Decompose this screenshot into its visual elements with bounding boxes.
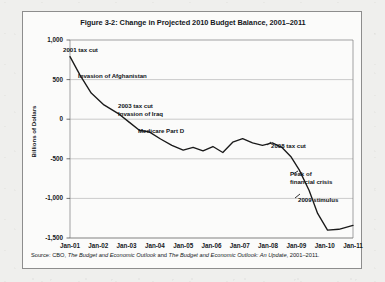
chart-annotation: financial crisis [290,178,332,186]
source-prefix: Source: CBO, [31,252,68,258]
source-note: Source: CBO, The Budget and Economic Out… [31,251,357,259]
chart-annotation: Invasion of Iraq [118,110,163,118]
y-axis-tick-label: -500 [29,155,63,162]
figure-card: Figure 3-2: Change in Projected 2010 Bud… [22,11,362,269]
figure-title: Figure 3-2: Change in Projected 2010 Bud… [23,18,363,27]
y-axis-title: Billions of Dollars [30,84,37,180]
chart-annotation: 2008 tax cut [271,142,306,150]
source-italic-2: The Budget and Economic Outlook: An Upda… [169,252,287,258]
gridlines [70,80,353,238]
y-axis-tick-label: 500 [29,76,63,83]
axis-frame [70,40,353,238]
y-axis-tick-label: 0 [29,115,63,122]
source-italic-1: The Budget and Economic Outlook [68,252,156,258]
source-suffix: , 2001–2011. [287,252,320,258]
source-mid: and [156,252,169,258]
y-axis-tick-label: -1,000 [29,194,63,201]
axis-tickmarks [67,40,71,238]
y-axis-tick-label: 1,000 [29,36,63,43]
chart-annotation: Invasion of Afghanistan [78,72,147,80]
chart-annotation: Medicare Part D [138,127,184,135]
chart-annotation: 2009 stimulus [298,196,338,204]
chart-annotation: 2001 tax cut [63,46,98,54]
chart-plot-area: Billions of Dollars 1,0005000-500-1,000-… [23,32,363,248]
x-axis-tick-label: Jan-11 [333,242,373,249]
y-axis-tick-label: -1,500 [29,234,63,241]
line-chart-svg [23,32,363,248]
